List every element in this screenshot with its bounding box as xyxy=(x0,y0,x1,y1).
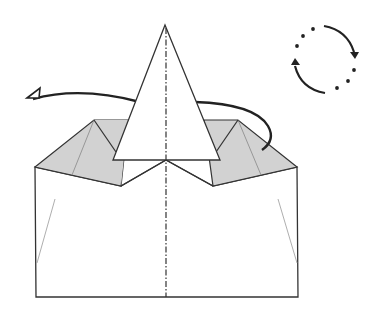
arrow-head-icon xyxy=(27,88,40,98)
rotate-icon xyxy=(291,26,359,93)
turn-over-arrow xyxy=(33,93,140,102)
origami-diagram xyxy=(0,0,379,318)
